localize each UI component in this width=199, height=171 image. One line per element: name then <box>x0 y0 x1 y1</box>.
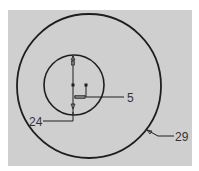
diagram-canvas: 5 24 29 <box>0 0 199 171</box>
eccentricity-dimension <box>74 96 124 99</box>
arrow-icon <box>147 130 152 134</box>
center-point-inner <box>72 84 75 87</box>
reference-label-24: 24 <box>29 115 43 129</box>
leader-line-24 <box>43 112 73 121</box>
outer-circle <box>17 14 161 158</box>
reference-label-29: 29 <box>175 130 189 144</box>
reference-label-5: 5 <box>127 91 134 105</box>
leader-line-29 <box>147 130 174 136</box>
